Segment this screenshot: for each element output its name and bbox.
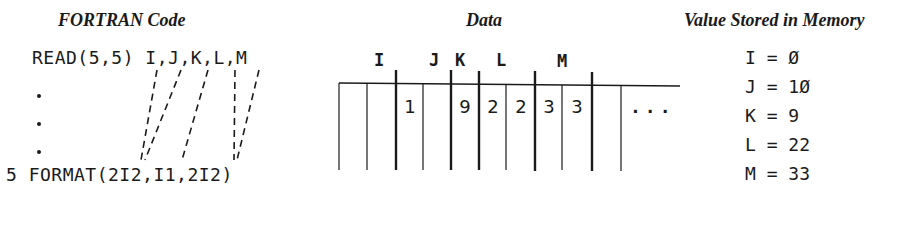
memory-var: K <box>745 105 756 126</box>
memory-row-k: K = 9 <box>745 105 799 126</box>
memory-value: 33 <box>788 163 810 184</box>
column-label-m: M <box>557 51 567 71</box>
memory-row-l: L = 22 <box>745 134 810 155</box>
memory-value: 1Ø <box>788 76 810 97</box>
column-label-l: L <box>496 50 506 70</box>
mapping-line-j <box>145 70 181 160</box>
record-cell: 3 <box>535 96 563 117</box>
record-cell: 2 <box>479 96 507 117</box>
memory-var: L <box>745 134 756 155</box>
memory-var: M <box>745 163 756 184</box>
record-top-line <box>339 83 680 86</box>
mapping-line-l <box>234 70 235 160</box>
memory-value: 22 <box>788 134 810 155</box>
memory-var: J <box>745 76 756 97</box>
mapping-line-k <box>182 70 208 160</box>
column-label-i: I <box>374 50 384 70</box>
memory-value: Ø <box>788 47 799 68</box>
record-cell: 1 <box>396 96 424 117</box>
column-label-k: K <box>455 50 465 70</box>
memory-row-i: I = Ø <box>745 47 799 68</box>
mapping-line-m <box>237 70 259 160</box>
record-cell: 9 <box>451 96 479 117</box>
memory-value: 9 <box>788 105 799 126</box>
mapping-line-i <box>141 70 157 160</box>
column-label-j: J <box>429 50 439 70</box>
record-cell: 2 <box>507 96 535 117</box>
record-cell: 3 <box>563 96 591 117</box>
memory-row-j: J = 1Ø <box>745 76 810 97</box>
field-mapping-lines <box>141 70 259 160</box>
record-grid <box>339 70 680 171</box>
memory-row-m: M = 33 <box>745 163 810 184</box>
record-continuation: ... <box>630 96 675 117</box>
memory-var: I <box>745 47 756 68</box>
